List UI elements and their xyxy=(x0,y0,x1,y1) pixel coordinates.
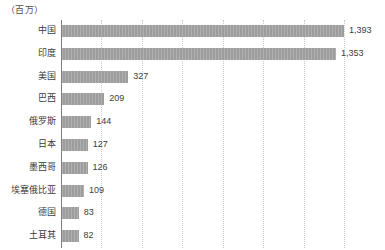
bar-row: 墨西哥126 xyxy=(61,157,385,180)
bar-value-label: 209 xyxy=(109,92,124,105)
bar-row: 印度1,353 xyxy=(61,43,385,66)
bar-row: 埃塞俄比亚109 xyxy=(61,180,385,203)
bar-row: 巴西209 xyxy=(61,88,385,111)
bar[interactable] xyxy=(62,162,88,174)
bar[interactable] xyxy=(62,48,336,60)
category-label: 印度 xyxy=(38,47,56,60)
bar[interactable] xyxy=(62,93,104,105)
category-label: 中国 xyxy=(38,24,56,37)
bar-value-label: 1,353 xyxy=(341,47,364,60)
bar-value-label: 83 xyxy=(84,206,94,219)
category-label: 土耳其 xyxy=(29,229,56,242)
category-label: 墨西哥 xyxy=(29,161,56,174)
bar-value-label: 327 xyxy=(133,70,148,83)
bar[interactable] xyxy=(62,185,84,197)
category-label: 美国 xyxy=(38,70,56,83)
bar-row: 美国327 xyxy=(61,66,385,89)
bar-row: 中国1,393 xyxy=(61,20,385,43)
bar[interactable] xyxy=(62,71,128,83)
bar-value-label: 109 xyxy=(89,184,104,197)
bar-row: 俄罗斯144 xyxy=(61,111,385,134)
bar-row: 土耳其82 xyxy=(61,225,385,248)
bar[interactable] xyxy=(62,230,79,242)
plot-area: 中国1,393印度1,353美国327巴西209俄罗斯144日本127墨西哥12… xyxy=(61,20,385,248)
category-label: 巴西 xyxy=(38,92,56,105)
category-label: 俄罗斯 xyxy=(29,115,56,128)
bar[interactable] xyxy=(62,116,91,128)
bar-value-label: 1,393 xyxy=(349,24,372,37)
category-label: 日本 xyxy=(38,138,56,151)
bar-value-label: 144 xyxy=(96,115,111,128)
bar-value-label: 127 xyxy=(93,138,108,151)
bar[interactable] xyxy=(62,25,344,37)
category-label: 德国 xyxy=(38,206,56,219)
bar-value-label: 126 xyxy=(93,161,108,174)
bar[interactable] xyxy=(62,207,79,219)
bar-row: 德国83 xyxy=(61,202,385,225)
bar[interactable] xyxy=(62,139,88,151)
bar-chart: （百万） 中国1,393印度1,353美国327巴西209俄罗斯144日本127… xyxy=(0,0,385,250)
bar-value-label: 82 xyxy=(84,229,94,242)
chart-unit-caption: （百万） xyxy=(6,3,43,16)
bar-row: 日本127 xyxy=(61,134,385,157)
category-label: 埃塞俄比亚 xyxy=(11,184,56,197)
